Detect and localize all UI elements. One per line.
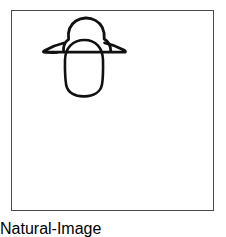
hat-brim-path: [43, 43, 125, 52]
sketch-drawing: [0, 0, 226, 220]
hat-brim-left-tip: [44, 52, 57, 53]
face-oval-path: [65, 40, 103, 96]
drawing-canvas: [0, 0, 226, 220]
